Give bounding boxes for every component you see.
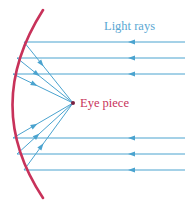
reflected-ray: [24, 103, 73, 170]
arrow-left-icon: [128, 40, 135, 45]
reflected-ray: [17, 103, 73, 154]
arrow-left-icon: [128, 168, 135, 173]
arrow-left-icon: [128, 72, 135, 77]
reflected-ray: [13, 103, 73, 138]
diagram-canvas: Light rays Eye piece: [0, 0, 193, 211]
arrow-direction-icon: [37, 142, 45, 151]
arrow-left-icon: [128, 152, 135, 157]
arrow-direction-icon: [30, 122, 39, 130]
arrow-direction-icon: [30, 81, 38, 89]
focus-point-dot: [71, 101, 75, 105]
arrow-left-icon: [128, 136, 135, 141]
light-rays-label: Light rays: [104, 20, 155, 33]
eye-piece-label: Eye piece: [80, 97, 129, 110]
reflected-ray: [24, 42, 73, 103]
arrow-left-icon: [128, 56, 135, 61]
